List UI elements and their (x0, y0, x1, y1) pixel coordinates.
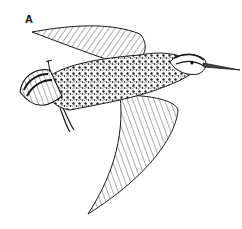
bill (203, 63, 240, 70)
lower-wing (88, 95, 178, 214)
eye (190, 61, 193, 64)
snipe-illustration (0, 0, 242, 229)
legs (60, 108, 74, 132)
